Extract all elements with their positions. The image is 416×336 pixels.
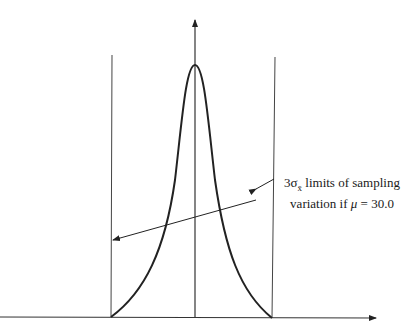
control-limits-diagram [0, 0, 416, 336]
upper-limit-line [272, 57, 275, 318]
upper-limit-pointer-arrow [256, 179, 274, 189]
lower-limit-pointer-arrow [113, 200, 256, 240]
lower-limit-line [111, 55, 112, 317]
limits-annotation: 3σx̄ limits of sampling variation if μ =… [277, 175, 407, 212]
sampling-distribution-curve [111, 65, 272, 318]
annotation-line-2: variation if μ = 30.0 [277, 196, 407, 212]
x-axis [0, 317, 376, 318]
annotation-line-1: 3σx̄ limits of sampling [277, 175, 407, 196]
